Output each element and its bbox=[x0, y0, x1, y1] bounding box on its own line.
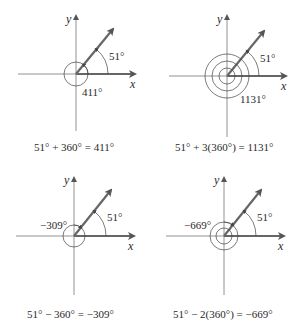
coterminal-angle-label: −669° bbox=[184, 219, 211, 231]
y-axis-label: y bbox=[63, 173, 70, 187]
panel-411: y x 51° 411° 51° + 360° = 411° bbox=[18, 12, 136, 153]
reference-angle-arc bbox=[94, 211, 106, 236]
equation: 51° + 3(360°) = 1131° bbox=[175, 141, 274, 154]
rotation-arc-end bbox=[74, 225, 81, 228]
reference-angle-label: 51° bbox=[257, 211, 272, 223]
coterminal-angle-label: −309° bbox=[40, 219, 67, 231]
equation: 51° + 360° = 411° bbox=[34, 141, 114, 153]
reference-angle-arc bbox=[244, 211, 256, 236]
equation: 51° − 360° = −309° bbox=[27, 308, 114, 320]
panel-1131: y x 51° 1131° 51° + 3(360°) = 1131° bbox=[169, 12, 287, 154]
coterminal-angles-figure: y x 51° 411° 51° + 360° = 411° y x 51° 1… bbox=[0, 0, 301, 331]
coterminal-angle-label: 411° bbox=[82, 86, 103, 98]
reference-angle-label: 51° bbox=[109, 50, 124, 62]
reference-angle-arc bbox=[96, 49, 108, 74]
panel-neg309: y x 51° −309° 51° − 360° = −309° bbox=[16, 173, 134, 320]
x-axis-label: x bbox=[277, 239, 284, 253]
x-axis-label: x bbox=[127, 239, 134, 253]
coterminal-angle-label: 1131° bbox=[240, 93, 266, 105]
y-axis-label: y bbox=[213, 173, 220, 187]
panel-neg669: y x 51° −669° 51° − 2(360°) = −669° bbox=[166, 173, 284, 321]
y-axis-label: y bbox=[65, 12, 72, 26]
reference-angle-label: 51° bbox=[260, 52, 275, 64]
rotation-arc-end bbox=[84, 65, 89, 74]
x-axis-label: x bbox=[129, 77, 136, 91]
x-axis-label: x bbox=[280, 79, 287, 93]
rotation-arc-end bbox=[224, 222, 233, 225]
y-axis-label: y bbox=[216, 12, 223, 26]
equation: 51° − 2(360°) = −669° bbox=[173, 308, 273, 321]
reference-angle-label: 51° bbox=[107, 211, 122, 223]
